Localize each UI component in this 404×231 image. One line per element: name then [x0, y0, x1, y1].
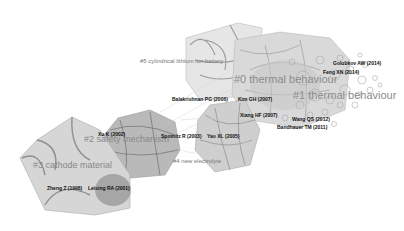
- cluster-label-0: #0 thermal behaviour: [234, 74, 337, 85]
- ref-label: Golubkov AW (2014): [333, 61, 381, 66]
- ref-label: Xu K (2002): [98, 132, 125, 137]
- cluster-label-3: #3 cathode material: [33, 161, 112, 170]
- ref-label: Leising RA (2001): [88, 186, 130, 191]
- cluster-label-1: #1 thermal behaviour: [293, 90, 396, 101]
- ref-label: Wang QS (2012): [292, 117, 330, 122]
- ref-label: Kim GH (2007): [238, 97, 272, 102]
- network-graph: [0, 0, 404, 231]
- cluster-label-5: #5 cylindrical lithium ion battery: [140, 58, 223, 64]
- ref-label: Bandhauer TM (2011): [277, 125, 327, 130]
- ref-label: Spotnitz R (2003): [161, 134, 202, 139]
- ref-label: Feng XN (2014): [323, 70, 359, 75]
- cluster-label-2: #2 safety mechanism: [84, 135, 169, 144]
- ref-label: Zheng Z (1998): [47, 186, 82, 191]
- ref-label: Balakrishnan PG (2006): [172, 97, 228, 102]
- ref-label: Yao XL (2005): [207, 134, 239, 139]
- cluster-label-4: #4 new electrolyte: [173, 158, 221, 164]
- ref-label: Xiang HF (2007): [240, 113, 278, 118]
